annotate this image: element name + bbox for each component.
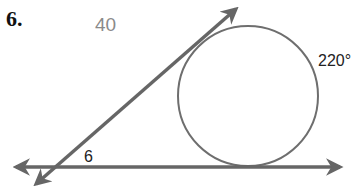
diagonal-tangent-line bbox=[36, 9, 236, 184]
circle bbox=[178, 26, 318, 166]
geometry-figure: 6. 40 220° 6 bbox=[0, 0, 358, 195]
answer-value: 40 bbox=[95, 14, 116, 35]
problem-number: 6. bbox=[6, 6, 23, 31]
angle-label: 6 bbox=[84, 148, 93, 165]
arc-measure-label: 220° bbox=[318, 52, 351, 69]
